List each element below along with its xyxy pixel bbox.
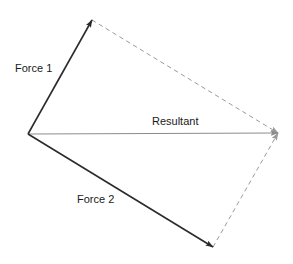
force-1-vector-arrow xyxy=(28,20,92,134)
force-1-label: Force 1 xyxy=(15,62,52,74)
dashed-construction-line-lower xyxy=(213,133,278,247)
force-2-label: Force 2 xyxy=(77,193,114,205)
force-2-vector-arrow xyxy=(28,134,213,247)
force-vector-diagram: Force 1 Force 2 Resultant xyxy=(0,0,293,264)
vector-diagram-canvas: Force 1 Force 2 Resultant xyxy=(0,0,293,264)
resultant-label: Resultant xyxy=(152,115,198,127)
resultant-vector-arrow xyxy=(28,133,278,134)
